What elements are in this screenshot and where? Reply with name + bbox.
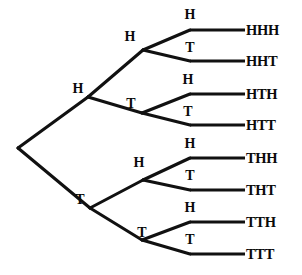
node-label-level2-HH: H <box>125 30 136 44</box>
edge-TT-to-TTT <box>142 240 190 254</box>
edge-TH-to-THH <box>143 158 190 180</box>
outcome-label-HHH: HHH <box>246 23 279 38</box>
outcome-label-THT: THT <box>246 183 276 198</box>
outcome-label-THH: THH <box>246 151 277 166</box>
edge-TH-to-THT <box>143 180 190 190</box>
outcome-label-TTT: TTT <box>246 247 274 262</box>
node-label-level3-TTH: H <box>185 201 196 215</box>
edge-HH-to-HHT <box>143 50 190 61</box>
node-label-level3-HHT: T <box>185 41 194 55</box>
edge-HH-to-HHH <box>143 30 190 50</box>
node-label-level3-TTT: T <box>185 233 194 247</box>
edge-T-to-TH <box>90 180 143 208</box>
outcome-label-HTH: HTH <box>246 87 277 102</box>
node-label-level1-T: T <box>75 193 84 207</box>
node-label-level3-HTT: T <box>183 105 192 119</box>
edge-T-to-TT <box>90 208 142 240</box>
outcome-label-TTH: TTH <box>246 215 276 230</box>
outcome-label-HTT: HTT <box>246 118 276 133</box>
edge-H-to-HH <box>88 50 143 97</box>
node-label-level2-TT: T <box>137 226 146 240</box>
node-label-level2-TH: H <box>134 156 145 170</box>
node-label-level2-HT: T <box>126 97 135 111</box>
node-label-level3-HHH: H <box>185 8 196 22</box>
node-label-level3-THT: T <box>185 169 194 183</box>
node-label-level1-H: H <box>73 82 84 96</box>
tree-diagram-canvas: H T H T H T H T H T H T H T HHH HHT HTH … <box>0 0 302 275</box>
tree-edges-svg <box>0 0 302 275</box>
edge-root-to-H <box>18 97 88 148</box>
edge-TT-to-TTH <box>142 222 190 240</box>
node-label-level3-THH: H <box>185 137 196 151</box>
node-label-level3-HTH: H <box>183 73 194 87</box>
outcome-label-HHT: HHT <box>246 54 277 69</box>
